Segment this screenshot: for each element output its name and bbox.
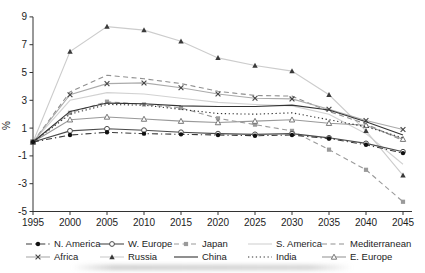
legend-swatch-africa [25, 252, 51, 262]
x-tick-label: 2040 [355, 217, 378, 228]
y-tick-label: -1 [18, 150, 27, 161]
legend-item-n-america: N. America [25, 238, 99, 249]
series-n-america [31, 130, 405, 155]
x-tick-label: 2045 [392, 217, 415, 228]
y-axis-label: % [1, 121, 12, 130]
legend-swatch-w-europe [99, 239, 125, 249]
y-tick-label: 3 [21, 95, 27, 106]
x-tick-label: 2020 [207, 217, 230, 228]
legend-item-e-europe: E. Europe [321, 251, 423, 262]
legend-label-india: India [276, 251, 297, 262]
legend-label-china: China [202, 251, 227, 262]
legend-label-africa: Africa [54, 251, 78, 262]
plot-area: 97531-1-3-519952000200520102015202020252… [0, 0, 425, 235]
legend-swatch-japan [173, 239, 199, 249]
x-tick-label: 2005 [96, 217, 119, 228]
legend-item-china: China [173, 251, 247, 262]
x-tick-label: 2010 [133, 217, 156, 228]
y-tick-label: -3 [18, 178, 27, 189]
legend-swatch-mediterranean [321, 239, 347, 249]
legend-label-russia: Russia [128, 251, 157, 262]
y-tick-label: 7 [21, 39, 27, 50]
legend-swatch-india [247, 252, 273, 262]
legend-label-s-america: S. America [276, 238, 322, 249]
y-tick-label: 5 [21, 67, 27, 78]
legend-label-mediterranean: Mediterranean [350, 238, 411, 249]
x-tick-label: 2025 [244, 217, 267, 228]
legend-swatch-russia [99, 252, 125, 262]
x-tick-label: 1995 [22, 217, 45, 228]
legend-swatch-china [173, 252, 199, 262]
y-tick-label: 1 [21, 123, 27, 134]
x-tick-label: 2035 [318, 217, 341, 228]
legend-item-india: India [247, 251, 321, 262]
series-russia [30, 24, 405, 178]
chart-legend: N. AmericaW. EuropeJapanS. AmericaMedite… [25, 237, 423, 263]
line-chart: 97531-1-3-519952000200520102015202020252… [0, 0, 425, 235]
x-tick-label: 2030 [281, 217, 304, 228]
series-w-europe [31, 126, 406, 154]
cropped-caption-blur [72, 265, 352, 270]
legend-row: AfricaRussiaChinaIndiaE. Europe [25, 250, 423, 263]
legend-row: N. AmericaW. EuropeJapanS. AmericaMedite… [25, 237, 423, 250]
y-tick-label: -5 [18, 206, 27, 217]
legend-swatch-n-america [25, 239, 51, 249]
legend-item-africa: Africa [25, 251, 99, 262]
series-s-america [33, 93, 403, 165]
legend-item-mediterranean: Mediterranean [321, 238, 423, 249]
x-tick-label: 2015 [170, 217, 193, 228]
legend-swatch-s-america [247, 239, 273, 249]
legend-label-japan: Japan [202, 238, 228, 249]
legend-item-s-america: S. America [247, 238, 321, 249]
legend-label-e-europe: E. Europe [350, 251, 392, 262]
legend-item-w-europe: W. Europe [99, 238, 173, 249]
legend-swatch-e-europe [321, 252, 347, 262]
legend-item-japan: Japan [173, 238, 247, 249]
legend-label-w-europe: W. Europe [128, 238, 172, 249]
legend-item-russia: Russia [99, 251, 173, 262]
y-tick-label: 9 [21, 11, 27, 22]
legend-label-n-america: N. America [54, 238, 100, 249]
x-tick-label: 2000 [59, 217, 82, 228]
